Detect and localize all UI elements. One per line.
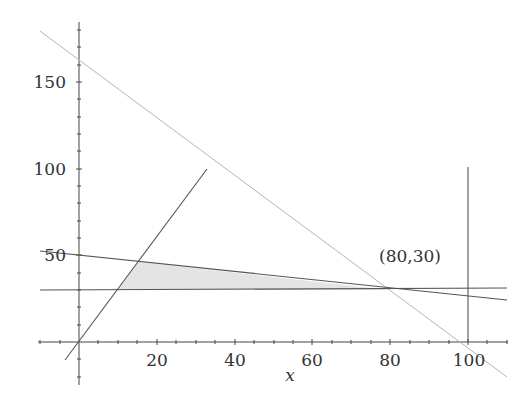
linear-program-chart: 20 40 60 80 100 50 100 150 x (80,30) xyxy=(0,0,532,401)
x-tick-label: 40 xyxy=(224,350,246,370)
y-tick-label: 100 xyxy=(34,159,66,179)
vertex-annotation: (80,30) xyxy=(379,246,441,266)
x-tick-label: 60 xyxy=(301,350,323,370)
feasible-region xyxy=(118,262,390,290)
y-axis xyxy=(76,22,82,385)
x-tick-label: 20 xyxy=(146,350,168,370)
y-tick-label: 150 xyxy=(34,72,66,92)
line-5x-3y-490 xyxy=(40,31,507,377)
y-tick-label: 50 xyxy=(44,245,66,265)
x-tick-label: 80 xyxy=(379,350,401,370)
x-axis xyxy=(38,339,508,345)
x-tick-label: 100 xyxy=(453,350,485,370)
x-axis-label: x xyxy=(285,365,295,385)
line-y-3x xyxy=(65,169,207,360)
